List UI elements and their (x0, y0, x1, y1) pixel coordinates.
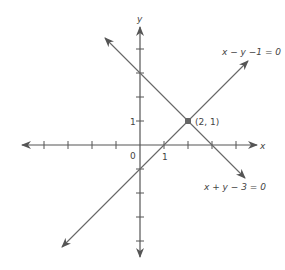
coordinate-diagram: y x 0 1 1 (2, 1) x − y −1 = 0 x + y − 3 … (0, 0, 285, 270)
y-axis (136, 27, 144, 257)
line-label-x-minus-y-minus-1: x − y −1 = 0 (221, 47, 281, 57)
y-axis-label: y (136, 14, 143, 24)
intersection-label: (2, 1) (195, 117, 219, 127)
line-x-minus-y-minus-1 (62, 61, 248, 247)
y-tick-label-1: 1 (130, 117, 136, 127)
line-label-x-plus-y-minus-3: x + y − 3 = 0 (203, 182, 266, 192)
origin-label: 0 (130, 151, 136, 161)
line-x-plus-y-minus-3 (105, 38, 245, 178)
x-tick-label-1: 1 (162, 152, 168, 162)
intersection-point (185, 118, 191, 124)
x-axis-label: x (259, 141, 266, 151)
